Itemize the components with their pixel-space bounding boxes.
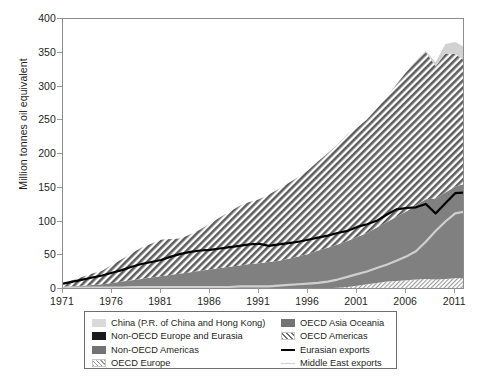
y-axis-tick-mark	[57, 254, 62, 255]
x-axis-tick-mark	[258, 288, 259, 293]
legend-swatch	[281, 349, 295, 351]
y-axis-tick-label: 350	[16, 46, 56, 58]
legend-label: China (P.R. of China and Hong Kong)	[111, 318, 265, 328]
legend-label: Middle East exports	[300, 358, 382, 368]
legend-item[interactable]: Non-OECD Americas	[92, 343, 278, 356]
chart-legend: China (P.R. of China and Hong Kong)Non-O…	[84, 311, 397, 369]
legend-item[interactable]: OECD Asia Oceania	[281, 316, 401, 329]
y-axis-tick-label: 100	[16, 215, 56, 227]
stacked-area-series	[63, 19, 464, 288]
legend-item[interactable]: China (P.R. of China and Hong Kong)	[92, 316, 278, 329]
y-axis-tick-label: 400	[16, 12, 56, 24]
x-axis-tick-mark	[454, 288, 455, 293]
legend-label: OECD Americas	[300, 331, 368, 341]
legend-label: OECD Europe	[111, 358, 170, 368]
plot-area	[62, 18, 464, 288]
y-axis-tick-mark	[57, 86, 62, 87]
chart-figure: Million tonnes oil equivalent 0501001502…	[0, 0, 481, 379]
y-axis-tick-label: 50	[16, 248, 56, 260]
plot-container: Million tonnes oil equivalent 0501001502…	[0, 0, 481, 300]
y-axis-tick-mark	[57, 18, 62, 19]
x-axis-tick-mark	[209, 288, 210, 293]
legend-label: Eurasian exports	[300, 345, 370, 355]
y-axis-tick-mark	[57, 52, 62, 53]
legend-swatch	[281, 319, 295, 327]
legend-column-right: OECD Asia OceaniaOECD AmericasEurasian e…	[281, 316, 401, 370]
y-axis-tick-mark	[57, 221, 62, 222]
legend-item[interactable]: Eurasian exports	[281, 343, 401, 356]
y-axis-tick-label: 300	[16, 80, 56, 92]
y-axis-tick-mark	[57, 153, 62, 154]
y-axis-tick-mark	[57, 119, 62, 120]
legend-item[interactable]: Non-OECD Europe and Eurasia	[92, 330, 278, 343]
y-axis-tick-mark	[57, 187, 62, 188]
y-axis-tick-label: 200	[16, 147, 56, 159]
legend-label: Non-OECD Americas	[111, 345, 199, 355]
x-axis-line	[62, 288, 464, 289]
x-axis-tick-mark	[160, 288, 161, 293]
legend-column-left: China (P.R. of China and Hong Kong)Non-O…	[92, 316, 278, 370]
legend-swatch	[281, 363, 295, 364]
legend-swatch	[281, 332, 295, 340]
legend-swatch	[92, 346, 106, 354]
x-axis-tick-mark	[62, 288, 63, 293]
y-axis-tick-label: 250	[16, 113, 56, 125]
legend-item[interactable]: OECD Americas	[281, 330, 401, 343]
y-axis-tick-mark	[57, 288, 62, 289]
legend-label: Non-OECD Europe and Eurasia	[111, 331, 243, 341]
y-axis-tick-label: 0	[16, 282, 56, 294]
legend-item[interactable]: Middle East exports	[281, 357, 401, 370]
legend-swatch	[92, 332, 106, 340]
legend-swatch	[92, 359, 106, 367]
x-axis-tick-mark	[356, 288, 357, 293]
y-axis-tick-label: 150	[16, 181, 56, 193]
x-axis-tick-mark	[307, 288, 308, 293]
legend-item[interactable]: OECD Europe	[92, 357, 278, 370]
legend-swatch	[92, 319, 106, 327]
y-axis-tick-labels: 050100150200250300350400	[16, 0, 56, 300]
x-axis-tick-label: 2011	[424, 295, 481, 307]
x-axis-tick-mark	[405, 288, 406, 293]
x-axis-tick-mark	[111, 288, 112, 293]
legend-label: OECD Asia Oceania	[300, 318, 384, 328]
